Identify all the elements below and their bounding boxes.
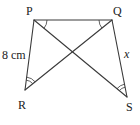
angle-mark-P <box>44 20 47 28</box>
side-label-QS: x <box>123 47 130 61</box>
segment-QR <box>25 20 112 90</box>
triangle-diagram: P Q R S 8 cm x <box>0 0 140 125</box>
label-P: P <box>26 4 33 18</box>
diagram-canvas: P Q R S 8 cm x <box>0 0 140 125</box>
label-Q: Q <box>113 4 122 18</box>
angle-mark-R-inner <box>26 80 33 84</box>
angle-mark-R-outer <box>27 77 35 82</box>
side-label-PR: 8 cm <box>2 48 26 62</box>
angle-mark-Q <box>99 20 102 28</box>
label-R: R <box>18 98 26 112</box>
angle-mark-S-inner <box>119 87 125 90</box>
label-S: S <box>126 100 133 114</box>
segment-PS <box>34 20 127 97</box>
